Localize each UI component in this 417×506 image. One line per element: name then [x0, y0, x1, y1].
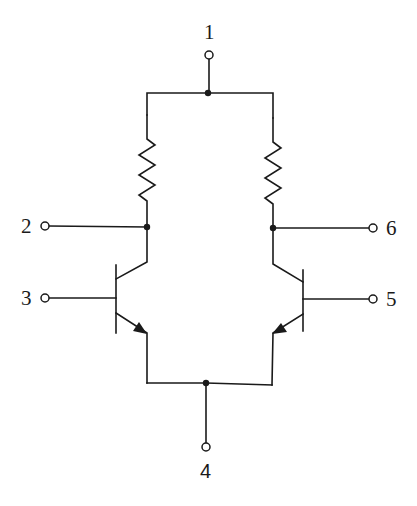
- terminal-5-circle: [369, 295, 377, 303]
- circuit-diagram: 1 2 3 4 5 6: [0, 0, 417, 506]
- terminal-6-label: 6: [386, 218, 397, 239]
- bottom-rail: [147, 383, 272, 443]
- terminal-5-label: 5: [386, 289, 397, 310]
- terminal-1-label: 1: [204, 22, 215, 43]
- resistor-r1: [139, 115, 155, 227]
- transistor-q2: [272, 228, 369, 385]
- terminal-3-label: 3: [21, 288, 32, 309]
- terminal-2-circle: [41, 222, 49, 230]
- schematic-svg: [0, 0, 417, 506]
- junction-bottom: [203, 380, 209, 386]
- top-rail: [147, 93, 273, 118]
- emitter-arrow-q1: [133, 322, 147, 334]
- junction-right-collector: [270, 225, 276, 231]
- terminal-4-label: 4: [200, 461, 211, 481]
- junction-top: [205, 90, 211, 96]
- resistor-r2: [265, 118, 281, 228]
- terminal-4-circle: [202, 443, 210, 451]
- terminal-6-circle: [369, 224, 377, 232]
- terminal-2-label: 2: [21, 216, 32, 237]
- terminal-3-circle: [41, 294, 49, 302]
- terminal-1-circle: [205, 51, 213, 59]
- junction-left-collector: [144, 224, 150, 230]
- terminal-2-wire: [49, 226, 147, 227]
- transistor-q1: [49, 227, 147, 383]
